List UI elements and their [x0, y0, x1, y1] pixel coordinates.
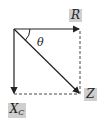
- theta-label: θ: [37, 36, 44, 49]
- theta-angle-arc: [25, 29, 30, 40]
- xc-label-sub: C: [18, 108, 24, 117]
- z-label: Z: [84, 88, 97, 101]
- xc-label-main: X: [10, 102, 19, 116]
- z-vector: [14, 29, 79, 93]
- xc-label: XC: [8, 103, 26, 118]
- z-label-text: Z: [86, 87, 94, 101]
- r-label: R: [69, 9, 82, 22]
- r-label-text: R: [71, 8, 80, 22]
